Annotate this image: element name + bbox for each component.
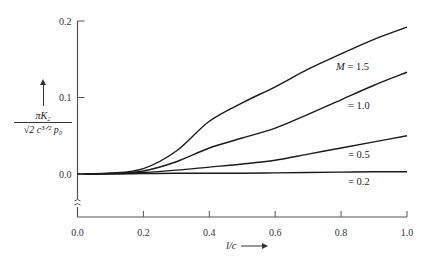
y-label-numerator: πK₂ [12, 106, 74, 121]
x-tick-label: 0.6 [269, 227, 282, 238]
x-tick-label: 0.2 [137, 227, 150, 238]
x-axis-arrow-icon [241, 243, 268, 249]
fraction-bar [14, 122, 72, 123]
curve-label: M = 1.5 [335, 61, 369, 72]
x-tick-label: 1.0 [401, 227, 414, 238]
x-tick-label: 0.8 [335, 227, 348, 238]
y-tick-label: 0.0 [59, 169, 72, 180]
curve-label: = 1.0 [348, 100, 370, 111]
x-tick-label: 0.4 [203, 227, 216, 238]
axes [75, 21, 408, 217]
curve-label: = 0.2 [348, 176, 370, 187]
ticks: 0.00.20.40.60.81.00.00.10.2 [59, 16, 413, 239]
x-tick-label: 0.0 [71, 227, 84, 238]
axis-break-icon [75, 200, 81, 206]
curve-label: = 0.5 [348, 149, 370, 160]
x-axis-label: l/c [226, 240, 237, 251]
y-axis-arrow-icon [43, 84, 44, 106]
curve-labels: M = 1.5= 1.0= 0.5= 0.2 [335, 61, 370, 187]
y-tick-label: 0.2 [59, 16, 72, 27]
y-axis-label: πK₂ √2 c³ᐟ² p₀ [12, 84, 74, 135]
y-label-denominator: √2 c³ᐟ² p₀ [12, 124, 74, 135]
